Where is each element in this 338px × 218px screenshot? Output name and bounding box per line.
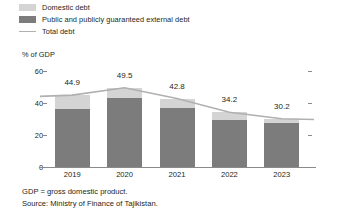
note-gdp-definition: GDP = gross domestic product. [22,186,158,198]
legend-item-external-debt: Public and publicly guaranteed external … [19,14,319,25]
total-debt-polyline [40,88,314,120]
legend-item-domestic-debt: Domestic debt [19,2,319,13]
x-axis-label-2023: 2023 [262,170,302,179]
legend-label-domestic-debt: Domestic debt [42,3,90,12]
x-axis-label-2019: 2019 [52,170,92,179]
legend-label-external-debt: Public and publicly guaranteed external … [42,15,190,24]
total-debt-line [46,71,308,167]
x-axis-labels: 20192020202120222023 [46,170,308,182]
x-axis-label-2022: 2022 [209,170,249,179]
y-tick-mark-right-60 [308,71,312,72]
y-tick-label-20: 20 [13,131,43,140]
chart-figure: Domestic debt Public and publicly guaran… [0,0,338,218]
legend-swatch-domestic-debt [19,4,36,11]
chart-legend: Domestic debt Public and publicly guaran… [19,2,319,38]
y-tick-label-60: 60 [13,67,43,76]
y-tick-mark-right-20 [308,135,312,136]
legend-label-total-debt: Total debt [42,27,75,36]
legend-item-total-debt: Total debt [19,26,319,37]
plot-area: 0204060 44.949.542.834.230.2 [46,71,308,167]
x-axis-line [40,167,316,168]
x-axis-label-2020: 2020 [105,170,145,179]
y-tick-mark-right-40 [308,103,312,104]
legend-swatch-external-debt [19,16,36,23]
x-axis-label-2021: 2021 [157,170,197,179]
y-axis-title: % of GDP [22,50,55,59]
chart-notes: GDP = gross domestic product. Source: Mi… [22,186,158,209]
y-tick-label-0: 0 [13,163,43,172]
y-tick-label-40: 40 [13,99,43,108]
note-source: Source: Ministry of Finance of Tajikista… [22,198,158,210]
legend-line-total-debt [19,28,36,35]
